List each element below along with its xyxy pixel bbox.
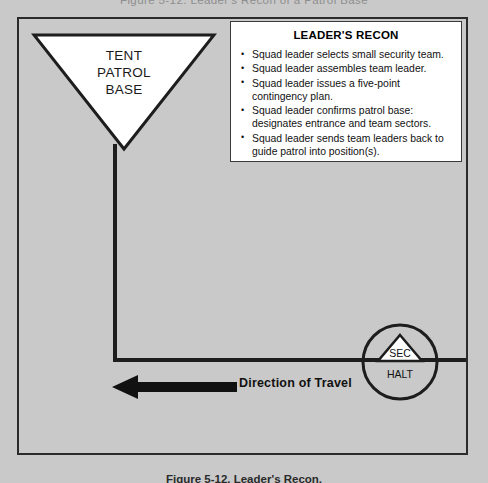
list-item: Squad leader selects small security team… [240, 48, 452, 61]
left-arrow-icon [112, 374, 237, 400]
tent-label-line-1: TENT [31, 47, 217, 64]
tent-label-line-3: BASE [31, 81, 217, 98]
tent-patrol-base-symbol: TENT PATROL BASE [31, 31, 217, 153]
route-line-vertical [113, 144, 117, 362]
direction-of-travel-label: Direction of Travel [239, 376, 352, 390]
list-item: Squad leader confirms patrol base: desig… [240, 104, 452, 131]
list-item: Squad leader issues a five-point conting… [240, 77, 452, 104]
direction-of-travel-arrow [112, 374, 237, 400]
halt-security-marker: SEC HALT [360, 322, 440, 402]
halt-label: HALT [387, 368, 414, 380]
running-header: Figure 5-12. Leader's Recon of a Patrol … [0, 0, 488, 8]
leaders-recon-list: Squad leader selects small security team… [240, 48, 452, 158]
list-item: Squad leader sends team leaders back to … [240, 132, 452, 159]
security-label: SEC [389, 347, 411, 359]
tent-patrol-base-label: TENT PATROL BASE [31, 47, 217, 98]
leaders-recon-title: LEADER'S RECON [240, 29, 452, 41]
circle-with-triangle-icon: SEC HALT [360, 322, 440, 402]
figure-caption: Figure 5-12. Leader's Recon. [0, 473, 488, 483]
tent-label-line-2: PATROL [31, 64, 217, 81]
list-item: Squad leader assembles team leader. [240, 62, 452, 75]
leaders-recon-box: LEADER'S RECON Squad leader selects smal… [230, 21, 462, 162]
figure-frame: TENT PATROL BASE LEADER'S RECON Squad le… [17, 17, 468, 455]
